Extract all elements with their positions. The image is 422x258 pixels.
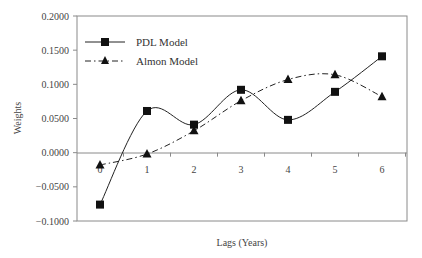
y-tick-label: 0.1500 (42, 45, 70, 56)
square-marker-icon (96, 201, 104, 209)
y-tick-label: 0.1000 (42, 79, 70, 90)
y-axis-title: Weights (12, 102, 23, 135)
triangle-marker-icon (237, 96, 246, 105)
x-tick-label: 2 (192, 164, 197, 175)
y-tick-label: −0.1000 (36, 216, 69, 227)
x-tick-label: 1 (145, 164, 150, 175)
legend: PDL Model Almon Model (85, 36, 198, 67)
legend-almon-label: Almon Model (136, 55, 198, 67)
legend-item-almon: Almon Model (85, 55, 198, 67)
triangle-marker-icon (378, 92, 387, 101)
triangle-marker-icon (284, 75, 293, 84)
pdl-model-line (100, 56, 382, 204)
legend-pdl-label: PDL Model (136, 36, 188, 48)
square-marker-icon (143, 107, 151, 115)
chart-canvas: 0.20000.15000.10000.05000.0000−0.0500−0.… (0, 0, 422, 258)
square-marker-icon (284, 116, 292, 124)
x-tick-label: 3 (239, 164, 244, 175)
plot-frame (77, 16, 407, 221)
y-tick-label: 0.0500 (42, 113, 70, 124)
y-tick-label: 0.2000 (42, 11, 70, 22)
legend-item-pdl: PDL Model (85, 36, 188, 48)
square-marker-icon (378, 52, 386, 60)
y-axis-ticks: 0.20000.15000.10000.05000.0000−0.0500−0.… (36, 11, 77, 227)
square-marker-icon (101, 38, 109, 46)
y-tick-label: 0.0000 (42, 147, 70, 158)
x-tick-label: 4 (286, 164, 291, 175)
square-marker-icon (237, 86, 245, 94)
y-tick-label: −0.0500 (36, 181, 69, 192)
x-axis-title: Lags (Years) (217, 237, 268, 249)
square-marker-icon (331, 88, 339, 96)
x-tick-label: 5 (333, 164, 338, 175)
triangle-marker-icon (101, 56, 109, 64)
x-tick-label: 6 (380, 164, 385, 175)
series-group (96, 52, 387, 208)
